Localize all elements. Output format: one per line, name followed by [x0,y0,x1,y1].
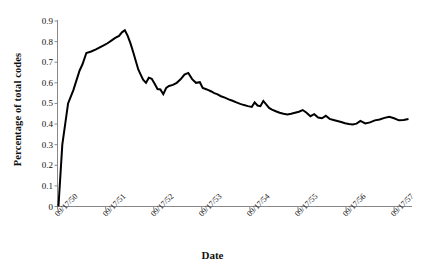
x-tick-label: 09/17/53 [197,192,223,218]
x-axis-title: Date [0,249,425,261]
x-tick-label: 09/17/51 [101,192,127,218]
x-tick-label: 09/17/52 [149,192,175,218]
x-tick-label: 09/17/55 [293,192,319,218]
chart-figure: Percentage of total codes 00.10.20.30.40… [0,0,425,273]
x-axis-tick-labels: 09/17/5009/17/5109/17/5209/17/5309/17/54… [0,0,425,273]
x-tick-label: 09/17/56 [341,192,367,218]
x-tick-label: 09/17/50 [53,192,79,218]
x-tick-label: 09/17/57 [389,192,415,218]
x-tick-label: 09/17/54 [245,192,271,218]
